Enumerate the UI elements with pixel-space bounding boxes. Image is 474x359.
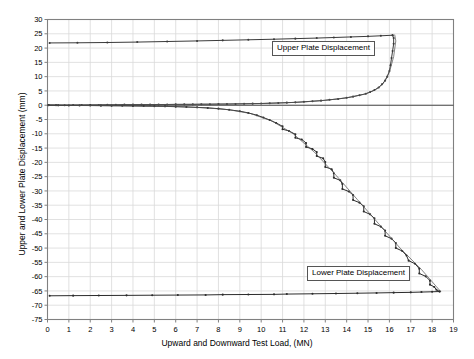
data-point-marker [392,50,394,52]
y-tick-label: 20 [34,44,42,53]
data-point-marker [392,34,394,36]
data-point-marker [106,41,108,43]
data-point-marker [196,40,198,42]
data-point-marker [49,42,51,44]
data-point-marker [429,284,431,286]
chart-figure: 0123456789101112131415161718193025201510… [0,0,474,359]
x-tick-label: 19 [449,325,457,334]
y-tick-label: 5 [38,87,42,96]
y-tick-label: -70 [32,301,43,310]
x-axis-title: Upward and Downward Test Load, (MN) [0,338,474,348]
x-tick-label: 13 [321,325,329,334]
x-tick-label: 2 [88,325,92,334]
series-line [48,105,441,291]
data-point-marker [316,151,318,153]
y-tick-label: 30 [34,15,42,24]
data-point-marker [294,38,296,40]
y-tick-label: -25 [32,172,43,181]
y-tick-label: -55 [32,258,43,267]
data-point-marker [393,43,395,45]
y-tick-label: -75 [32,315,43,324]
x-tick-label: 15 [364,325,372,334]
data-point-marker [49,295,51,297]
data-point-marker [324,166,326,168]
x-tick-label: 14 [342,325,350,334]
y-tick-label: -30 [32,187,43,196]
data-point-marker [282,128,284,130]
series-line [50,292,440,296]
y-tick-label: -60 [32,272,43,281]
x-tick-label: 9 [238,325,242,334]
data-point-marker [136,41,138,43]
data-point-marker [356,292,358,294]
data-point-marker [311,293,313,295]
x-tick-label: 16 [385,325,393,334]
data-point-marker [151,294,153,296]
data-point-marker [341,188,343,190]
data-point-marker [367,35,369,37]
x-tick-label: 4 [131,325,135,334]
data-point-marker [273,293,275,295]
data-point-marker [322,157,324,159]
x-tick-label: 18 [428,325,436,334]
data-point-marker [305,146,307,148]
data-point-marker [98,294,100,296]
data-point-marker [76,42,78,44]
data-point-marker [410,291,412,293]
x-tick-label: 12 [300,325,308,334]
data-point-marker [333,36,335,38]
x-tick-label: 11 [279,325,287,334]
data-point-marker [316,37,318,39]
annotation-lower-plate-displacement: Lower Plate Displacement [307,266,410,281]
data-point-marker [435,289,437,291]
y-tick-label: -40 [32,215,43,224]
tick-label-layer: 0123456789101112131415161718193025201510… [32,15,458,333]
data-point-marker [333,177,335,179]
y-tick-label: -65 [32,287,43,296]
data-point-marker [222,39,224,41]
annotation-upper-plate-displacement: Upper Plate Displacement [272,41,375,56]
data-point-marker [294,137,296,139]
series-layer [48,34,441,297]
y-tick-label: -5 [36,115,43,124]
data-point-marker [350,36,352,38]
x-tick-label: 6 [174,325,178,334]
x-tick-label: 3 [110,325,114,334]
data-point-marker [352,199,354,201]
y-tick-label: 10 [34,72,42,81]
data-point-marker [439,290,441,292]
data-point-marker [273,38,275,40]
y-tick-label: 25 [34,29,42,38]
data-point-marker [205,294,207,296]
data-point-marker [408,260,410,262]
series-line [49,105,440,291]
x-tick-label: 17 [407,325,415,334]
data-point-marker [305,142,307,144]
data-point-marker [72,295,74,297]
data-point-marker [247,293,249,295]
y-tick-label: 0 [38,101,42,110]
x-tick-label: 5 [152,325,156,334]
data-point-marker [395,247,397,249]
data-point-marker [247,39,249,41]
data-point-marker [384,235,386,237]
x-tick-label: 0 [45,325,49,334]
data-point-marker [393,37,395,39]
data-point-marker [418,272,420,274]
y-tick-label: 15 [34,58,42,67]
y-tick-label: -15 [32,144,43,153]
data-point-marker [286,293,288,295]
data-point-marker [177,294,179,296]
x-tick-label: 10 [257,325,265,334]
y-axis-title: Upper and Lower Plate Displacement (mm) [17,74,27,274]
data-point-marker [433,286,435,288]
data-point-marker [373,223,375,225]
data-point-marker [166,40,168,42]
data-point-marker [393,292,395,294]
data-point-marker [126,294,128,296]
data-point-marker [363,210,365,212]
y-tick-label: -50 [32,244,43,253]
data-point-marker [376,292,378,294]
y-tick-label: -35 [32,201,43,210]
data-point-marker [380,35,382,37]
